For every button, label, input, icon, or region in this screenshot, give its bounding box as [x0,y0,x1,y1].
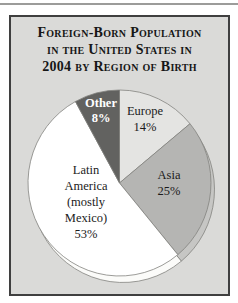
pie-slice-label-latin-america-line-3: (mostly [34,194,138,210]
pie-slice-label-europe: Europe 14% [114,103,176,135]
pie-chart [0,0,238,303]
pie-slice-label-europe-name: Europe [114,103,176,119]
pie-slice-label-latin-america-line-1: Latin [34,162,138,178]
pie-slice-label-europe-value: 14% [114,119,176,135]
pie-slice-label-asia: Asia 25% [139,167,199,199]
pie-slice-label-latin-america-line-5: 53% [34,226,138,242]
pie-slice-label-asia-value: 25% [139,183,199,199]
pie-slice-label-asia-name: Asia [139,167,199,183]
pie-slice-label-latin-america-line-4: Mexico) [34,210,138,226]
figure-page: Foreign-Born Population in the United St… [0,0,238,303]
pie-slice-label-latin-america-line-2: America [34,178,138,194]
pie-slice-label-latin-america: Latin America (mostly Mexico) 53% [34,162,138,242]
